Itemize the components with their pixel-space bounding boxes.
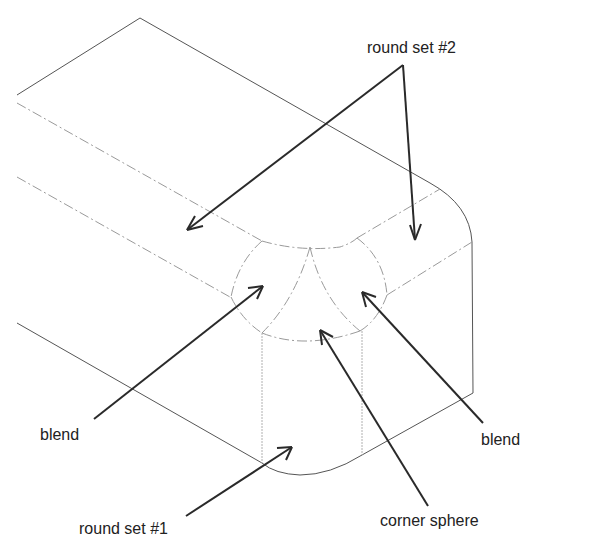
leader-arrows [94,65,483,516]
leader-blend-right [362,292,483,423]
vertical-seams [262,331,362,463]
leader-round-set-2-right [403,65,415,240]
label-round-set-2: round set #2 [367,40,456,56]
label-round-set-1: round set #1 [79,521,168,537]
leader-blend-left [94,286,263,419]
tangent-edges [17,103,472,341]
cad-diagram [0,0,591,557]
label-blend-left: blend [40,427,79,443]
leader-corner-sphere [320,330,428,506]
label-corner-sphere: corner sphere [380,513,479,529]
leader-round-set-1 [186,447,292,516]
leader-round-set-2-left [187,65,403,230]
label-blend-right: blend [481,432,520,448]
